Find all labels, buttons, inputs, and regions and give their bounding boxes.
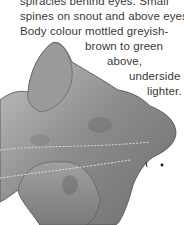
text-line-7: lighter. bbox=[147, 84, 182, 98]
text-line-4: brown to green bbox=[85, 39, 163, 53]
text-line-2: spines on snout and above eyes. bbox=[20, 9, 184, 23]
text-line-1: spiracles behind eyes. Small bbox=[20, 0, 169, 8]
text-line-3: Body colour mottled greyish- bbox=[20, 24, 169, 38]
text-line-5: above, bbox=[107, 54, 142, 68]
text-line-6: underside bbox=[129, 69, 180, 83]
